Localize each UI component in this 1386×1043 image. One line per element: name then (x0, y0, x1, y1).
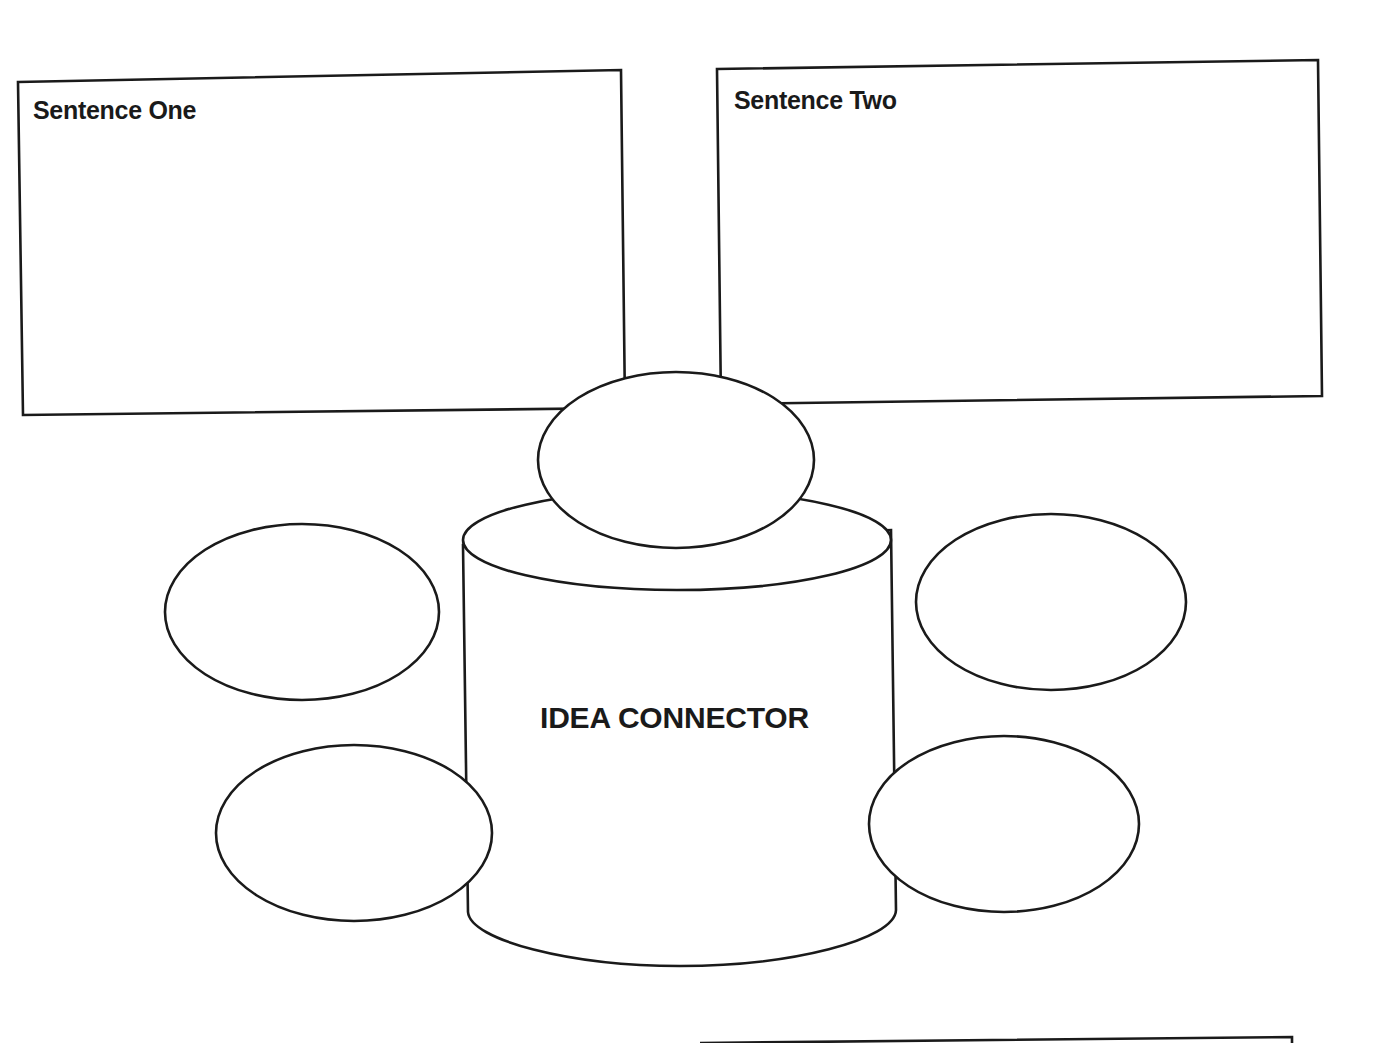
oval-left-upper[interactable] (165, 524, 439, 700)
oval-top[interactable] (538, 372, 814, 548)
connector-cylinder (463, 530, 896, 966)
oval-right-upper[interactable] (916, 514, 1186, 690)
idea-connector-diagram (0, 0, 1386, 1043)
diagram-title: IDEA CONNECTOR (540, 701, 809, 735)
bottom-box-edge (700, 1037, 1292, 1043)
sentence-one-label: Sentence One (33, 96, 196, 125)
sentence-two-label: Sentence Two (734, 86, 897, 115)
oval-left-lower[interactable] (216, 745, 492, 921)
oval-right-lower[interactable] (869, 736, 1139, 912)
